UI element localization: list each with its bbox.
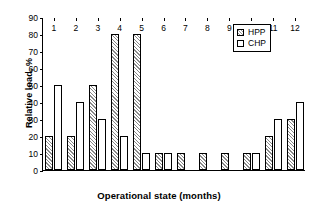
y-tick-mark	[40, 171, 43, 172]
white-square-swatch-icon	[237, 40, 244, 47]
y-tick-mark	[40, 103, 43, 104]
legend-item-chp: CHP	[237, 38, 266, 49]
bar-hpp-1	[45, 136, 53, 170]
x-tick-label: 4	[108, 24, 132, 33]
legend-label-chp: CHP	[248, 39, 266, 48]
bar-hpp-11	[265, 136, 273, 170]
bar-chp-10	[252, 153, 260, 170]
x-tick-label: 2	[64, 24, 88, 33]
bar-chp-3	[98, 119, 106, 170]
bar-hpp-5	[133, 34, 141, 170]
bar-hpp-12	[287, 119, 295, 170]
y-tick-mark	[40, 69, 43, 70]
x-tick-label: 7	[173, 24, 197, 33]
bar-chp-2	[76, 102, 84, 170]
bar-chp-5	[142, 153, 150, 170]
x-tick-mark	[98, 18, 99, 21]
y-tick-label: 60	[14, 65, 38, 73]
y-tick-mark	[40, 35, 43, 36]
bar-hpp-3	[89, 85, 97, 170]
chart-legend: HPP CHP	[233, 24, 271, 52]
y-tick-mark	[40, 86, 43, 87]
x-tick-mark	[251, 18, 252, 21]
y-tick-label: 0	[14, 167, 38, 175]
bar-chp-12	[296, 102, 304, 170]
x-tick-mark	[229, 18, 230, 21]
y-tick-label: 10	[14, 150, 38, 158]
x-tick-mark	[164, 18, 165, 21]
x-tick-mark	[142, 18, 143, 21]
y-tick-mark	[40, 120, 43, 121]
bar-chp-6	[164, 153, 172, 170]
x-tick-mark	[185, 18, 186, 21]
x-tick-mark	[207, 18, 208, 21]
y-tick-label: 90	[14, 14, 38, 22]
y-tick-label: 20	[14, 133, 38, 141]
x-axis-title: Operational state (months)	[0, 190, 318, 201]
y-tick-mark	[40, 137, 43, 138]
y-tick-label: 50	[14, 82, 38, 90]
bar-hpp-6	[155, 153, 163, 170]
x-tick-mark	[273, 18, 274, 21]
bar-hpp-9	[221, 153, 229, 170]
x-tick-label: 12	[283, 24, 307, 33]
x-tick-label: 3	[86, 24, 110, 33]
x-tick-mark	[54, 18, 55, 21]
bar-hpp-4	[111, 34, 119, 170]
y-tick-mark	[40, 52, 43, 53]
y-axis-title: Relative load, %	[24, 23, 34, 163]
x-tick-label: 1	[42, 24, 66, 33]
bar-chp-11	[274, 119, 282, 170]
y-tick-label: 80	[14, 31, 38, 39]
y-tick-label: 40	[14, 99, 38, 107]
hatched-square-swatch-icon	[237, 29, 244, 36]
x-tick-mark	[76, 18, 77, 21]
bar-hpp-7	[177, 153, 185, 170]
y-tick-label: 30	[14, 116, 38, 124]
x-tick-mark	[295, 18, 296, 21]
bar-chp-4	[120, 136, 128, 170]
bar-chp-1	[54, 85, 62, 170]
bar-hpp-2	[67, 136, 75, 170]
bar-chart: Relative load, % 0102030405060708090 123…	[0, 0, 318, 211]
y-tick-label: 70	[14, 48, 38, 56]
bar-hpp-10	[243, 153, 251, 170]
x-tick-mark	[120, 18, 121, 21]
x-tick-label: 8	[195, 24, 219, 33]
y-tick-mark	[40, 154, 43, 155]
x-tick-label: 5	[130, 24, 154, 33]
y-tick-mark	[40, 18, 43, 19]
bar-hpp-8	[199, 153, 207, 170]
legend-label-hpp: HPP	[248, 28, 265, 37]
legend-item-hpp: HPP	[237, 27, 266, 38]
x-tick-label: 6	[152, 24, 176, 33]
